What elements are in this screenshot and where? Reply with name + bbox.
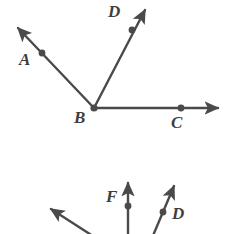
label-point-d-lower: D: [172, 205, 184, 222]
point-d-dot: [129, 27, 136, 34]
point-c-dot: [178, 105, 185, 112]
label-point-a: A: [19, 51, 30, 68]
geometry-diagram-canvas: A D C B F D: [0, 0, 229, 234]
label-vertex-b: B: [74, 109, 85, 126]
vertex-point-b: [90, 104, 97, 111]
label-point-d-upper: D: [108, 3, 120, 20]
point-f-dot: [125, 203, 132, 210]
label-point-c: C: [171, 114, 182, 131]
ray-left-partial-line: [51, 209, 96, 234]
label-point-f: F: [106, 188, 117, 205]
ray-bd-line: [94, 10, 145, 108]
point-a-dot: [39, 50, 46, 57]
upper-figure-group: [18, 10, 218, 112]
point-d-lower-dot: [160, 209, 167, 216]
